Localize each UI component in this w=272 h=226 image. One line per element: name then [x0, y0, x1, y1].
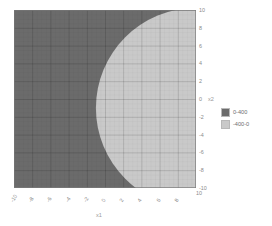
legend-item-label: -400-0 — [233, 121, 249, 128]
y-tick-label: 6 — [199, 43, 202, 49]
plot-area[interactable] — [14, 10, 196, 188]
y-tick-label: 8 — [199, 25, 202, 31]
legend-swatch-icon — [221, 108, 230, 117]
major-gridlines — [14, 10, 196, 188]
x-axis-title: x1 — [96, 212, 102, 218]
x-tick-label: 4 — [136, 197, 143, 203]
y-tick-label: -4 — [199, 132, 204, 138]
x-tick-label: 2 — [118, 197, 125, 203]
x-tick-label: 10 — [196, 190, 202, 196]
y-tick-label: 4 — [199, 60, 202, 66]
y-tick-label: -2 — [199, 114, 204, 120]
x-tick-label: -10 — [9, 193, 18, 203]
contour-chart: 10 8 6 4 2 0 -2 -4 -6 -8 -10 -10 -8 -6 -… — [0, 0, 272, 226]
x-tick-label: -2 — [82, 196, 90, 203]
x-tick-label: -8 — [27, 196, 35, 203]
x-tick-label: 8 — [173, 197, 180, 203]
x-tick-label: -4 — [64, 196, 72, 203]
legend-item-label: 0-400 — [233, 109, 247, 116]
legend-item[interactable]: -400-0 — [221, 119, 269, 129]
plot-svg — [14, 10, 196, 188]
y-tick-label: 10 — [199, 7, 205, 13]
y-tick-label: 2 — [199, 78, 202, 84]
x-tick-label: 0 — [100, 197, 107, 203]
y-tick-label: -6 — [199, 149, 204, 155]
x-tick-label: 6 — [155, 197, 162, 203]
chart-legend: 0-400 -400-0 — [221, 107, 269, 131]
legend-swatch-icon — [221, 120, 230, 129]
x-tick-label: -6 — [45, 196, 53, 203]
y-tick-label: 0 — [199, 96, 202, 102]
legend-item[interactable]: 0-400 — [221, 107, 269, 117]
y-axis-title: x2 — [208, 96, 214, 102]
y-tick-label: -8 — [199, 167, 204, 173]
